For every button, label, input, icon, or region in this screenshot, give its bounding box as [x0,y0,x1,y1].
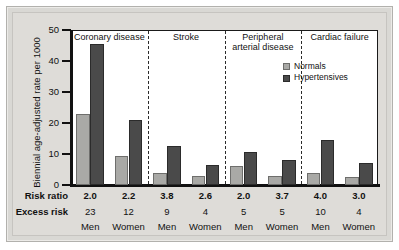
y-tick-mark [62,60,71,62]
table-cell: Women [189,221,222,232]
bar-hypertensives [206,165,220,185]
bar-hypertensives [167,146,181,185]
legend-swatch-normals-icon [283,63,290,70]
legend-swatch-hypertensives-icon [283,75,290,82]
y-tick-label: 30 [29,87,59,97]
panel-title: Stroke [148,33,225,43]
table-cell: 4.0 [314,190,327,201]
bar-hypertensives [359,163,373,185]
table-cell: 2.0 [84,190,97,201]
table-cell: Women [343,221,376,232]
y-tick-label: 20 [29,118,59,128]
table-cell: 3.0 [352,190,365,201]
table-cell: Men [234,221,252,232]
bar-normals [153,173,167,185]
risk-ratio-row-label: Risk ratio [0,190,68,201]
legend-item-hypertensives: Hypertensives [283,72,348,83]
bar-hypertensives [282,160,296,185]
figure-root: Biennial age-adjusted rate per 1000 5040… [0,0,399,250]
y-tick-mark [62,184,71,186]
table-cell: 4 [356,206,361,217]
table-cell: 2.2 [122,190,135,201]
table-cell: 23 [85,206,96,217]
legend-label-hypertensives: Hypertensives [294,72,348,83]
table-cell: Men [81,221,99,232]
panel-title: Coronary disease [71,33,148,43]
y-tick-label: 40 [29,56,59,66]
table-cell: Men [158,221,176,232]
table-cell: 10 [315,206,326,217]
legend-item-normals: Normals [283,61,348,72]
y-tick-label: 50 [29,25,59,35]
table-cell: 3.7 [275,190,288,201]
table-cell: 9 [164,206,169,217]
table-cell: 5 [241,206,246,217]
panel-title: Peripheral arterial disease [225,33,302,52]
panel-separator [225,31,226,184]
bar-normals [230,166,244,185]
table-cell: 4 [203,206,208,217]
bar-normals [76,114,90,185]
bar-hypertensives [90,44,104,185]
y-tick-mark [62,153,71,155]
bar-normals [268,176,282,185]
bar-normals [192,176,206,185]
table-cell: Women [266,221,299,232]
bar-normals [115,156,129,185]
panel-separator [301,31,302,184]
y-tick-mark [62,29,71,31]
legend-label-normals: Normals [294,61,326,72]
table-cell: 2.0 [237,190,250,201]
bar-normals [307,173,321,185]
y-axis-line [70,30,73,187]
panel-title: Cardiac failure [301,33,378,43]
table-cell: 5 [279,206,284,217]
legend: Normals Hypertensives [283,61,348,84]
table-cell: Men [311,221,329,232]
excess-risk-row-label: Excess risk [0,206,68,217]
bar-hypertensives [321,140,335,185]
table-cell: 2.6 [199,190,212,201]
y-tick-label: 0 [29,180,59,190]
y-tick-mark [62,122,71,124]
y-tick-label: 10 [29,149,59,159]
bar-hypertensives [244,152,258,185]
table-cell: Women [112,221,145,232]
panel-separator [148,31,149,184]
y-tick-mark [62,91,71,93]
bar-normals [345,177,359,185]
bar-hypertensives [129,120,143,185]
table-cell: 3.8 [160,190,173,201]
table-cell: 12 [123,206,134,217]
